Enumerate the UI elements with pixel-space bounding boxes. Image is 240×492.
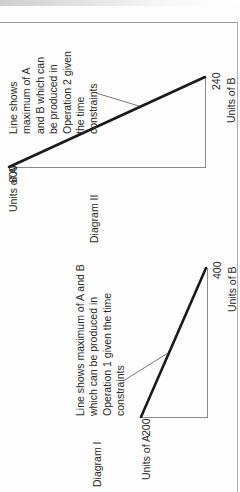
annotation-line: be produced in xyxy=(47,64,59,134)
annotation-line: Line shows xyxy=(7,81,19,134)
diagram-1-annotation: Line shows maximum of A and B which can … xyxy=(74,264,126,417)
diagram-2-annotation: Line shows maximum of A and B which can … xyxy=(7,51,99,134)
diagram-1-y-axis-label: Units of A xyxy=(140,435,152,480)
document-page: Units of A 600 Diagram II 240 Units of B… xyxy=(0,0,240,492)
annotation-line: and B which can xyxy=(34,57,46,134)
diagram-canvas: Units of A 600 Diagram II 240 Units of B… xyxy=(0,0,240,492)
diagram-2-x-intercept: 240 xyxy=(210,72,222,90)
diagram-2-leader-line xyxy=(96,93,139,106)
annotation-line: Operation 1 given the time xyxy=(101,293,113,416)
diagram-1-x-intercept: 400 xyxy=(211,261,223,279)
annotation-line: Line shows maximum of A and B xyxy=(74,264,86,416)
annotation-line: the time xyxy=(74,96,86,134)
annotation-line: which can be produced in xyxy=(87,297,99,417)
annotation-line: constraints xyxy=(114,365,126,416)
diagram-2: Units of A 600 Diagram II 240 Units of B… xyxy=(7,51,237,243)
diagram-2-caption: Diagram II xyxy=(88,195,100,243)
annotation-line: constraints xyxy=(87,83,99,134)
diagram-2-x-axis-label: Units of B xyxy=(225,77,237,123)
diagram-1-y-intercept: 200 xyxy=(140,418,152,436)
diagram-1-caption: Diagram I xyxy=(91,441,103,487)
diagram-1-x-axis-label: Units of B xyxy=(226,266,238,312)
annotation-line: Operation 2 given xyxy=(61,51,73,134)
diagram-1: Units of A 200 Diagram I 400 Units of B … xyxy=(74,261,238,487)
annotation-line: maximum of A xyxy=(20,67,32,134)
diagram-1-leader-line xyxy=(123,353,168,381)
diagram-1-constraint-line xyxy=(141,268,206,417)
diagram-2-y-intercept: 600 xyxy=(7,165,19,183)
